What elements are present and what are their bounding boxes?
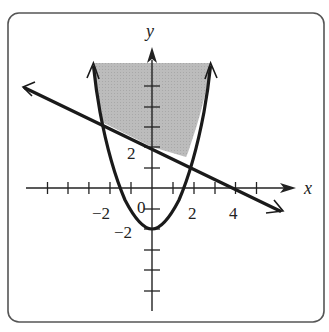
- graph-frame: [8, 13, 324, 322]
- origin-label: 0: [137, 198, 146, 217]
- x-axis-label: x: [303, 178, 312, 198]
- x-tick-label-4: 4: [229, 204, 238, 223]
- graph: y x 0 −2 2 4 2 −2: [0, 0, 329, 332]
- y-tick-label-neg2: −2: [114, 223, 132, 242]
- x-tick-label-2: 2: [188, 204, 197, 223]
- x-tick-label-neg2: −2: [92, 204, 110, 223]
- y-tick-label-2: 2: [127, 144, 136, 163]
- y-axis-label: y: [144, 21, 154, 41]
